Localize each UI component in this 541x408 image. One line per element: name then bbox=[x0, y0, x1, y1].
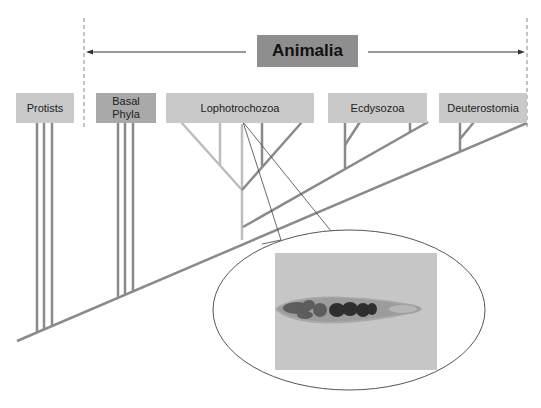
group-label-basal-phyla: Basal Phyla bbox=[112, 95, 140, 121]
flatworm-illustration bbox=[275, 253, 437, 370]
lophotrochozoa-branches bbox=[181, 122, 242, 240]
specimen-photo bbox=[275, 253, 437, 370]
basal-phyla-branches bbox=[118, 123, 133, 297]
group-box-ecdysozoa: Ecdysozoa bbox=[328, 93, 427, 123]
animalia-title: Animalia bbox=[272, 41, 343, 61]
group-box-lophotrochozoa: Lophotrochozoa bbox=[166, 93, 314, 123]
left-arrowhead-icon bbox=[86, 50, 93, 55]
group-box-basal-phyla: Basal Phyla bbox=[96, 93, 156, 123]
phylogenetic-tree-diagram: Animalia Protists Basal Phyla Lophotroch… bbox=[0, 0, 541, 408]
group-label-protists: Protists bbox=[27, 102, 64, 115]
group-box-deuterostomia: Deuterostomia bbox=[439, 93, 527, 123]
right-arrowhead-icon bbox=[518, 50, 525, 55]
group-label-lophotrochozoa: Lophotrochozoa bbox=[201, 102, 280, 115]
group-label-deuterostomia: Deuterostomia bbox=[447, 102, 519, 115]
ecdysozoa-branches bbox=[243, 122, 428, 227]
protist-branches bbox=[37, 123, 52, 332]
animalia-title-box: Animalia bbox=[257, 35, 358, 67]
group-label-ecdysozoa: Ecdysozoa bbox=[351, 102, 405, 115]
group-box-protists: Protists bbox=[16, 93, 74, 123]
callout-pointer-lines bbox=[243, 122, 350, 244]
